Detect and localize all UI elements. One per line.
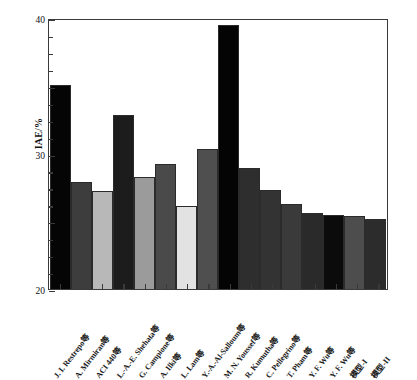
bar-slot [92, 20, 113, 289]
bar-slot [344, 20, 365, 289]
bar [281, 204, 302, 289]
y-axis-tick: 40 [49, 20, 55, 21]
bar [323, 215, 344, 289]
x-axis-tick [357, 284, 358, 289]
x-axis-tick-label: 模型-II [369, 354, 393, 380]
bar-slot [50, 20, 71, 289]
y-axis-minor-tick [49, 71, 53, 72]
bar [260, 190, 281, 289]
x-axis-tick [251, 284, 252, 289]
y-axis-minor-tick [49, 139, 53, 140]
bar-slot [134, 20, 155, 289]
bar [134, 177, 155, 289]
bar [218, 25, 239, 289]
y-axis-minor-tick [49, 172, 53, 173]
bar-slot [323, 20, 344, 289]
x-axis-tick [208, 284, 209, 289]
bar-slot [176, 20, 197, 289]
bar [176, 206, 197, 289]
bar-slot [260, 20, 281, 289]
bar [155, 164, 176, 289]
x-axis-tick [145, 284, 146, 289]
bar [239, 168, 260, 289]
x-axis-tick [123, 284, 124, 289]
bar [197, 149, 218, 289]
x-axis-tick [60, 284, 61, 289]
bar [344, 216, 365, 289]
bar [302, 213, 323, 289]
x-axis-tick [230, 284, 231, 289]
x-axis-tick [187, 284, 188, 289]
bar-slot [197, 20, 218, 289]
y-axis-minor-tick [49, 37, 53, 38]
y-axis-minor-tick [49, 54, 53, 55]
chart-figure: IAE/% 010203040 J. I. Restrepo等A. Mirmir… [0, 0, 417, 380]
x-axis-tick [315, 284, 316, 289]
y-axis-tick: 30 [49, 88, 55, 89]
bar-slot [71, 20, 92, 289]
bar-slot [239, 20, 260, 289]
bar [365, 219, 386, 289]
y-axis-tick: 10 [49, 223, 55, 224]
y-axis-minor-tick [49, 206, 53, 207]
y-axis-tick-label: 30 [36, 151, 46, 161]
x-axis-tick [102, 284, 103, 289]
x-axis-tick [272, 284, 273, 289]
x-axis-tick [336, 284, 337, 289]
y-axis-minor-tick [49, 189, 53, 190]
x-axis-tick [378, 284, 379, 289]
x-axis-tick [293, 284, 294, 289]
bar-slot [218, 20, 239, 289]
y-axis-minor-tick [49, 105, 53, 106]
plot-area: 010203040 [48, 19, 388, 290]
bar-slot [365, 20, 386, 289]
bar-slot [155, 20, 176, 289]
x-axis-tick [166, 284, 167, 289]
bar-slot [113, 20, 134, 289]
bar-slot [281, 20, 302, 289]
bar-slot [302, 20, 323, 289]
y-axis-minor-tick [49, 122, 53, 123]
y-axis-minor-tick [49, 240, 53, 241]
x-axis-tick-labels: J. I. Restrepo等A. Mirmiran等ACI 440等L.-A.… [48, 292, 388, 380]
bar [50, 85, 71, 289]
bar [92, 191, 113, 289]
x-axis-tick [81, 284, 82, 289]
y-axis-minor-tick [49, 274, 53, 275]
y-axis-minor-tick [49, 257, 53, 258]
y-axis-tick-label: 40 [36, 15, 46, 25]
bar-series [49, 20, 387, 289]
bar [113, 115, 134, 289]
bar [71, 182, 92, 289]
y-axis-tick-label: 20 [36, 286, 46, 296]
y-axis-tick: 20 [49, 156, 55, 157]
